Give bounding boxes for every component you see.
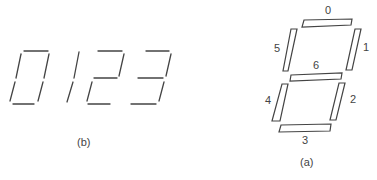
segment-label-4: 4 — [265, 94, 271, 106]
segment-6 — [290, 73, 342, 81]
segment-4 — [272, 84, 288, 121]
seven-segment-digits-display — [0, 0, 377, 180]
digit-0 — [10, 51, 49, 104]
segment-label-6: 6 — [313, 59, 319, 71]
segment-3 — [279, 124, 331, 132]
digit-1 — [67, 52, 79, 102]
segment-5 — [283, 29, 297, 71]
segment-label-0: 0 — [325, 4, 331, 16]
segment-label-2: 2 — [350, 93, 356, 105]
segment-1 — [346, 29, 361, 70]
segment-0 — [302, 19, 352, 27]
segment-label-5: 5 — [274, 42, 280, 54]
segment-label-1: 1 — [363, 41, 369, 53]
digit-2 — [87, 51, 124, 104]
digit-3 — [131, 51, 171, 104]
segment-2 — [330, 83, 345, 120]
segment-layout-diagram — [272, 19, 361, 132]
segment-label-3: 3 — [302, 134, 308, 146]
caption-a: (a) — [300, 156, 313, 168]
caption-b: (b) — [77, 136, 90, 148]
